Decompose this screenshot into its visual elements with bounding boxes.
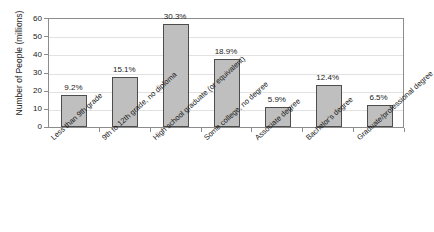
x-tick-mark-4 [302,128,303,132]
gridline-50 [49,37,403,38]
y-tick-label-10: 10 [22,105,42,113]
x-tick-mark-0 [99,128,100,132]
x-tick-mark-1 [150,128,151,132]
bar-value-label-0: 9.2% [55,84,91,92]
x-tick-mark-5 [353,128,354,132]
y-tick-label-0: 0 [22,123,42,131]
y-axis-tick-labels: 60 50 40 30 20 10 0 [0,0,46,232]
y-tick-label-20: 20 [22,87,42,95]
bar-value-label-6: 6.5% [361,94,397,102]
y-tick-label-40: 40 [22,51,42,59]
y-tick-label-60: 60 [22,15,42,23]
y-tick-label-50: 50 [22,33,42,41]
x-tick-mark-2 [201,128,202,132]
bar-value-label-2: 30.3% [157,13,193,21]
bar-value-label-5: 12.4% [310,74,346,82]
bar-value-label-1: 15.1% [106,66,142,74]
y-tick-label-30: 30 [22,69,42,77]
x-tick-mark-6 [404,128,405,132]
x-tick-mark-3 [251,128,252,132]
